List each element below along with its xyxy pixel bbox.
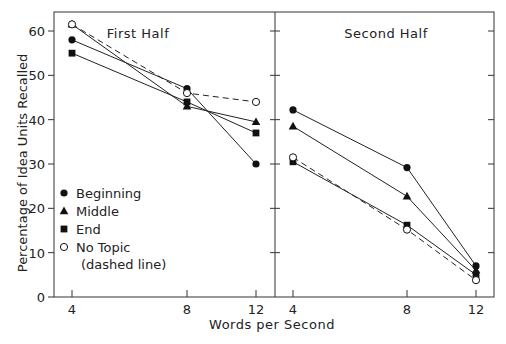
- legend-label: Beginning: [76, 186, 141, 201]
- series-line: [293, 110, 476, 266]
- filled-square-marker: [253, 130, 260, 137]
- series-beginning: [68, 36, 259, 167]
- legend-item-no-topic: No Topic(dashed line): [60, 240, 166, 272]
- series-line: [293, 162, 476, 275]
- x-axis: 48124812: [68, 290, 484, 317]
- series-line: [293, 157, 476, 280]
- x-tick-label: 12: [248, 302, 265, 317]
- series-line: [72, 53, 256, 133]
- y-tick-label: 30: [28, 157, 45, 172]
- legend-label: End: [76, 222, 101, 237]
- legend-label: Middle: [76, 204, 119, 219]
- filled-square-marker: [69, 50, 76, 57]
- open-circle-marker: [183, 89, 190, 96]
- open-circle-marker: [403, 226, 410, 233]
- y-tick-label: 20: [28, 201, 45, 216]
- filled-circle-marker: [68, 36, 75, 43]
- y-tick-label: 40: [28, 113, 45, 128]
- open-circle-marker: [60, 243, 67, 250]
- filled-triangle-marker: [403, 192, 412, 200]
- series-end: [290, 158, 480, 278]
- y-tick-label: 0: [37, 290, 45, 305]
- filled-circle-marker: [403, 164, 410, 171]
- legend-item-beginning: Beginning: [60, 186, 141, 201]
- x-tick-label: 4: [289, 302, 297, 317]
- series-middle: [289, 122, 481, 274]
- series-beginning: [289, 106, 479, 269]
- y-tick-label: 50: [28, 68, 45, 83]
- filled-square-marker: [61, 226, 68, 233]
- legend-label: No Topic: [76, 240, 131, 255]
- y-tick-label: 60: [28, 24, 45, 39]
- x-tick-label: 8: [183, 302, 191, 317]
- legend-item-end: End: [61, 222, 101, 237]
- filled-circle-marker: [252, 160, 259, 167]
- panel-title: First Half: [107, 26, 169, 41]
- series-end: [69, 50, 260, 137]
- panel-second-half: Second Half: [289, 26, 481, 284]
- x-axis-label: Words per Second: [209, 317, 335, 332]
- filled-square-marker: [184, 99, 191, 106]
- y-tick-label: 10: [28, 246, 45, 261]
- filled-triangle-marker: [289, 122, 298, 130]
- legend: BeginningMiddleEndNo Topic(dashed line): [60, 186, 167, 272]
- legend-item-middle: Middle: [60, 204, 119, 219]
- x-tick-label: 12: [468, 302, 485, 317]
- filled-triangle-marker: [60, 207, 69, 215]
- x-tick-label: 4: [68, 302, 76, 317]
- series-line: [293, 126, 476, 270]
- legend-note: (dashed line): [81, 257, 166, 272]
- open-circle-marker: [289, 154, 296, 161]
- open-circle-marker: [68, 21, 75, 28]
- open-circle-marker: [252, 98, 259, 105]
- filled-circle-marker: [60, 189, 67, 196]
- series-line: [72, 40, 256, 164]
- series-no-topic: [289, 154, 479, 284]
- chart: 0102030405060 48124812 First HalfSecond …: [0, 0, 506, 344]
- x-tick-label: 8: [403, 302, 411, 317]
- y-axis-label: Percentage of Idea Units Recalled: [15, 54, 30, 273]
- panel-first-half: First Half: [68, 20, 261, 168]
- open-circle-marker: [472, 277, 479, 284]
- filled-circle-marker: [289, 106, 296, 113]
- panel-title: Second Half: [344, 26, 427, 41]
